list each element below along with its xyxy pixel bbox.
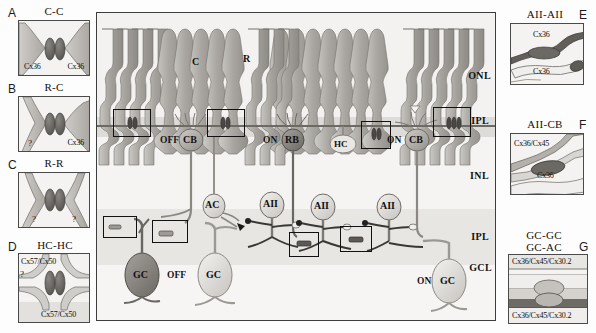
label-cb-1: CB (183, 134, 197, 145)
label-aii-1: AII (263, 198, 278, 209)
panel-a-label-right: Cx36 (67, 62, 84, 71)
label-gc-3: GC (440, 275, 455, 286)
layer-label-onl: ONL (468, 70, 491, 81)
panel-title-d: HC-HC (22, 239, 88, 251)
hilite-box-aii-cb (340, 226, 372, 252)
panel-e-aii-aii: Cx36 Cx36 (510, 23, 584, 85)
panel-g-gc-gc-ac: Cx36/Cx45/Cx30.2 Cx36/Cx45/Cx30.2 (508, 254, 588, 324)
panel-letter-d: D (8, 240, 17, 254)
panel-letter-f: F (579, 118, 586, 132)
panel-c-rod-rod: ? ? (18, 172, 90, 228)
panel-letter-g: G (579, 240, 588, 254)
panel-e-label-top: Cx36 (533, 30, 550, 39)
panel-f-aii-cb: Cx36/Cx45 Cx36 (510, 133, 584, 195)
hilite-box-rod-cone (207, 109, 245, 137)
panel-title-g-line1: GC-GC (512, 229, 576, 241)
layer-label-inl: INL (470, 170, 489, 181)
panel-title-e: AII-AII (516, 8, 574, 20)
panel-letter-c: C (8, 158, 17, 172)
panel-title-f: AII-CB (516, 118, 574, 130)
panel-d-label-top: Cx57/Cx50 (21, 257, 56, 266)
panel-d-question: ? (20, 269, 24, 279)
panel-c-question-right: ? (72, 214, 76, 224)
label-off-cb: OFF (160, 135, 179, 145)
hilite-box-hc-hc (361, 121, 391, 149)
layer-label-ipl: IPL (471, 231, 489, 242)
panel-b-question: ? (28, 138, 32, 148)
hilite-box-aii-aii (289, 232, 319, 257)
label-on-gc: ON (417, 276, 431, 286)
central-retina-panel: C R OFF CB ON RB HC ON CB AC AII AII AII… (96, 12, 496, 321)
hilite-box-gc-ac (152, 220, 188, 243)
retina-neuron-graphic (97, 13, 496, 321)
panel-title-c: R-R (22, 157, 86, 169)
panel-b-rod-cone: ? Cx36 (18, 96, 90, 152)
panel-d-label-bottom: Cx57/Cx50 (41, 310, 76, 319)
label-cone: C (192, 56, 199, 67)
panel-title-g-line2: GC-AC (512, 241, 576, 253)
panel-e-label-bottom: Cx36 (533, 67, 550, 76)
hilite-box-rod-rod (433, 107, 471, 137)
label-aii-3: AII (380, 200, 395, 211)
hilite-box-cone-cone (113, 109, 151, 137)
hilite-box-gc-gc-left (103, 216, 137, 238)
layer-label-opl: IPL (471, 115, 489, 126)
label-on-rb: ON (263, 135, 277, 145)
label-aii-2: AII (314, 200, 329, 211)
panel-title-a: C-C (22, 5, 86, 17)
layer-label-gcl: GCL (469, 262, 492, 273)
label-ac: AC (205, 199, 219, 210)
label-gc-1: GC (133, 269, 148, 280)
label-rod: R (243, 53, 250, 64)
panel-letter-b: B (8, 82, 16, 96)
panel-c-question-left: ? (32, 214, 36, 224)
panel-b-label-right: Cx36 (67, 138, 84, 147)
panel-a-cone-cone: Cx36 Cx36 (18, 20, 90, 76)
label-cb-2: CB (409, 134, 423, 145)
panel-f-label-top: Cx36/Cx45 (514, 139, 549, 148)
label-off-gc: OFF (167, 270, 186, 280)
panel-f-label-bottom: Cx36 (537, 171, 554, 180)
panel-d-hc-hc: Cx57/Cx50 Cx57/Cx50 ? (18, 253, 90, 323)
panel-c-graphic (19, 173, 90, 228)
panel-g-label-bottom: Cx36/Cx45/Cx30.2 (512, 311, 571, 320)
retina-gap-junction-figure: A C-C Cx36 Cx36 B R-C (0, 0, 596, 333)
label-hc: HC (334, 139, 348, 149)
panel-a-label-left: Cx36 (24, 62, 41, 71)
panel-letter-a: A (8, 6, 16, 20)
label-rb: RB (285, 134, 299, 145)
label-gc-2: GC (206, 269, 221, 280)
panel-g-label-top: Cx36/Cx45/Cx30.2 (512, 257, 571, 266)
panel-title-b: R-C (22, 81, 86, 93)
panel-letter-e: E (579, 8, 587, 22)
